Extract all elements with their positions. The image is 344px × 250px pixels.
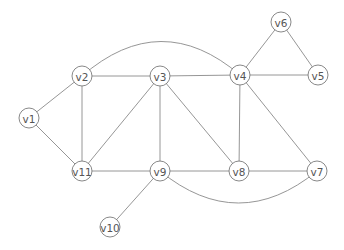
edge-v3-v8 bbox=[160, 76, 239, 171]
node-v9: v9 bbox=[150, 161, 170, 181]
node-v3: v3 bbox=[150, 66, 170, 86]
node-v7: v7 bbox=[307, 161, 327, 181]
node-v11: v11 bbox=[72, 161, 92, 181]
node-v2: v2 bbox=[72, 66, 92, 86]
node-label: v1 bbox=[23, 113, 36, 125]
node-label: v10 bbox=[100, 222, 120, 234]
edge-v3-v4 bbox=[160, 75, 240, 76]
node-label: v11 bbox=[72, 166, 92, 178]
node-label: v7 bbox=[311, 166, 324, 178]
node-v10: v10 bbox=[100, 217, 120, 237]
node-v5: v5 bbox=[308, 65, 328, 85]
node-label: v8 bbox=[233, 166, 246, 178]
node-v1: v1 bbox=[19, 108, 39, 128]
edge-v3-v11 bbox=[82, 76, 160, 171]
graph-canvas: v1v2v3v4v5v6v7v8v9v10v11 bbox=[0, 0, 344, 250]
edge-layer bbox=[29, 22, 318, 227]
edge-v1-v11 bbox=[29, 118, 82, 171]
node-label: v6 bbox=[275, 17, 288, 29]
node-label: v9 bbox=[154, 166, 167, 178]
node-v6: v6 bbox=[271, 12, 291, 32]
node-label: v4 bbox=[234, 70, 247, 82]
node-layer: v1v2v3v4v5v6v7v8v9v10v11 bbox=[19, 12, 328, 237]
node-v4: v4 bbox=[230, 65, 250, 85]
node-label: v3 bbox=[154, 71, 167, 83]
node-label: v2 bbox=[76, 71, 89, 83]
node-label: v5 bbox=[312, 70, 325, 82]
node-v8: v8 bbox=[229, 161, 249, 181]
edge-v9-v10 bbox=[110, 171, 160, 227]
edge-v4-v8 bbox=[239, 75, 240, 171]
edge-v4-v7 bbox=[240, 75, 317, 171]
